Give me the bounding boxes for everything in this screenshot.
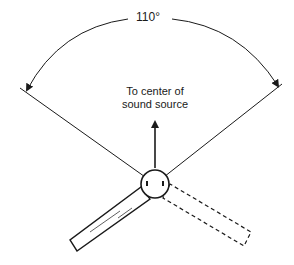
direction-label: To center of sound source xyxy=(108,85,202,111)
direction-label-line1: To center of xyxy=(108,85,202,98)
angle-arc-right xyxy=(172,19,278,86)
diagram-canvas: 110° To center of sound source xyxy=(0,0,294,265)
diagram-graphic xyxy=(0,0,294,265)
microphone-head xyxy=(141,170,169,198)
angle-label: 110° xyxy=(128,10,168,24)
microphone-handle-solid xyxy=(70,187,150,251)
angle-arc-left xyxy=(27,19,128,90)
direction-label-line2: sound source xyxy=(108,98,202,111)
microphone-handle-dashed xyxy=(163,184,251,246)
